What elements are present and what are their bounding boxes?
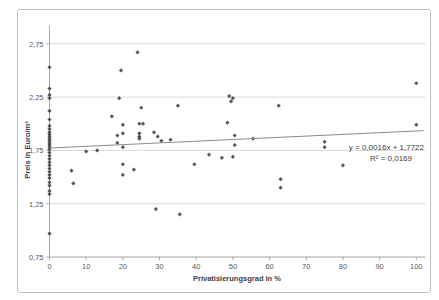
x-tick-label: 30: [155, 262, 163, 271]
x-tick-label: 100: [410, 262, 423, 271]
trendline-r-squared-label: R² = 0,0169: [370, 154, 413, 163]
x-tick-label: 50: [229, 262, 237, 271]
x-tick-label: 40: [192, 262, 200, 271]
y-tick-label: 0,75: [29, 253, 44, 262]
chart-container: 01020304050607080901000,751,251,752,252,…: [0, 0, 439, 300]
y-axis-title: Preis in Euro/m³: [23, 121, 32, 179]
x-tick-label: 60: [265, 262, 273, 271]
x-axis-title: Privatisierungsgrad in %: [193, 274, 281, 283]
x-tick-label: 20: [119, 262, 127, 271]
x-tick-label: 80: [339, 262, 347, 271]
y-tick-label: 2,75: [29, 40, 44, 49]
x-tick-label: 70: [302, 262, 310, 271]
scatter-chart-canvas: 01020304050607080901000,751,251,752,252,…: [0, 0, 439, 300]
y-tick-label: 2,25: [29, 93, 44, 102]
y-tick-label: 1,25: [29, 200, 44, 209]
x-tick-label: 10: [82, 262, 90, 271]
x-tick-label: 0: [47, 262, 51, 271]
trendline-equation-label: y = 0,0016x + 1,7722: [349, 143, 425, 152]
x-tick-label: 90: [375, 262, 383, 271]
